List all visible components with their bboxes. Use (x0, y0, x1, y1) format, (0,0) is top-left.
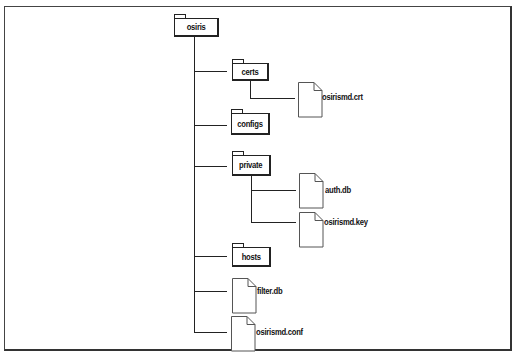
file-auth-db[interactable] (299, 173, 323, 208)
folder-private[interactable]: private (232, 151, 271, 176)
branch-certs-crt (250, 98, 295, 99)
root-trunk-line (194, 36, 195, 333)
folder-label: hosts (241, 252, 260, 262)
branch-private (194, 166, 227, 167)
file-icon (298, 82, 323, 118)
private-sub-trunk (251, 175, 252, 223)
file-icon (232, 278, 257, 314)
file-icon (299, 173, 324, 209)
folder-hosts[interactable]: hosts (232, 243, 271, 267)
file-icon (299, 212, 324, 248)
folder-label: private (239, 160, 262, 170)
branch-certs (194, 71, 227, 72)
file-filter-db[interactable] (232, 278, 256, 313)
file-label: osirismd.key (324, 217, 368, 227)
folder-configs[interactable]: configs (231, 109, 270, 135)
folder-certs[interactable]: certs (232, 59, 269, 81)
folder-label: osiris (187, 22, 206, 32)
file-osirismd-crt[interactable] (298, 82, 322, 117)
file-label: osirismd.conf (256, 327, 303, 337)
folder-label: configs (237, 119, 262, 129)
file-label: osirismd.crt (322, 92, 363, 102)
file-osirismd-key[interactable] (299, 212, 323, 247)
folder-label: certs (241, 67, 258, 77)
branch-configs (194, 125, 227, 126)
file-label: auth.db (325, 185, 351, 195)
branch-hosts (194, 256, 227, 257)
file-osirismd-conf[interactable] (231, 316, 255, 351)
folder-osiris[interactable]: osiris (174, 14, 219, 37)
diagram-frame (4, 6, 512, 351)
branch-private-key (251, 222, 296, 223)
branch-private-auth (251, 190, 296, 191)
certs-sub-trunk (250, 80, 251, 99)
file-icon (231, 316, 256, 352)
file-label: filter.db (257, 286, 282, 296)
branch-conf (194, 332, 227, 333)
branch-filter (194, 291, 227, 292)
